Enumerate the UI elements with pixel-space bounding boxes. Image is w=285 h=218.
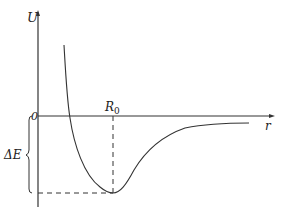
energy-gap-brace xyxy=(26,116,32,193)
potential-energy-diagram: U r 0 R0 ΔE xyxy=(0,0,285,218)
x-axis-label: r xyxy=(265,119,272,133)
x-axis-arrow-icon xyxy=(269,114,275,118)
equilibrium-label: R0 xyxy=(104,100,120,116)
origin-label: 0 xyxy=(31,110,38,123)
y-axis-label: U xyxy=(27,10,39,25)
energy-gap-label: ΔE xyxy=(3,148,22,162)
potential-curve xyxy=(64,45,249,193)
